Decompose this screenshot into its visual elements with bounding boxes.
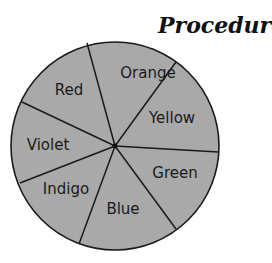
segment-label-blue: Blue (106, 200, 139, 218)
segment-label-orange: Orange (120, 64, 175, 82)
center-pivot (113, 144, 118, 149)
segment-label-red: Red (55, 81, 84, 99)
segment-label-green: Green (152, 164, 197, 182)
segment-label-yellow: Yellow (148, 109, 195, 127)
segment-label-violet: Violet (27, 136, 70, 154)
color-wheel-diagram: Orange Yellow Green Blue Indigo Violet R… (0, 0, 272, 263)
segment-label-indigo: Indigo (43, 180, 89, 198)
